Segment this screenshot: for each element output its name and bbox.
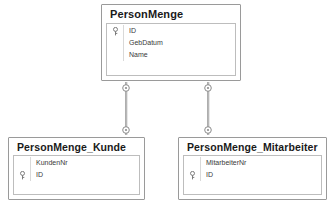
field-row[interactable]: ID: [107, 25, 235, 37]
cardinality-marker-ring-top: [123, 85, 130, 92]
cardinality-marker-ring-bottom: [123, 127, 130, 134]
field-list: KundenNr ID: [13, 155, 140, 195]
key-cell: [184, 169, 201, 181]
field-row[interactable]: KundenNr: [14, 157, 139, 169]
entity-title: PersonMenge: [102, 5, 240, 22]
key-cell: [14, 169, 31, 181]
field-list: MitarbeiterNr ID: [183, 155, 322, 195]
field-name: Name: [124, 49, 148, 61]
field-row[interactable]: ID: [184, 169, 321, 181]
field-row[interactable]: Name: [107, 49, 235, 61]
key-cell: [14, 157, 31, 169]
field-name: KundenNr: [31, 157, 68, 169]
relationship-personmenge-kunde[interactable]: [123, 82, 130, 135]
field-name: ID: [201, 169, 213, 181]
field-row[interactable]: ID: [14, 169, 139, 181]
field-name: ID: [31, 169, 43, 181]
relationship-personmenge-mitarbeiter[interactable]: [205, 82, 212, 135]
entity-personmenge[interactable]: PersonMenge ID GebDatum Name: [101, 4, 241, 81]
entity-title: PersonMenge_Mitarbeiter: [179, 138, 326, 155]
cardinality-marker-ring-top: [205, 85, 212, 92]
key-icon: [189, 171, 196, 180]
entity-personmenge-mitarbeiter[interactable]: PersonMenge_Mitarbeiter MitarbeiterNr ID: [178, 137, 327, 200]
cardinality-marker-ring-bottom: [205, 127, 212, 134]
field-row[interactable]: GebDatum: [107, 37, 235, 49]
field-name: ID: [124, 25, 136, 37]
entity-title: PersonMenge_Kunde: [9, 138, 144, 155]
key-cell: [107, 37, 124, 49]
key-icon: [19, 171, 26, 180]
field-name: MitarbeiterNr: [201, 157, 246, 169]
field-row[interactable]: MitarbeiterNr: [184, 157, 321, 169]
key-cell: [107, 49, 124, 61]
entity-personmenge-kunde[interactable]: PersonMenge_Kunde KundenNr ID: [8, 137, 145, 200]
key-icon: [112, 27, 119, 36]
field-list: ID GebDatum Name: [106, 23, 236, 76]
key-cell: [107, 25, 124, 37]
key-cell: [184, 157, 201, 169]
field-name: GebDatum: [124, 37, 163, 49]
